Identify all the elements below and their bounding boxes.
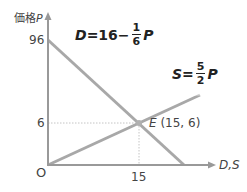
origin-label: O — [36, 166, 46, 179]
supply-eq-var: P — [207, 66, 217, 82]
demand-frac-den: 6 — [133, 35, 141, 47]
x-axis-arrow-icon — [208, 162, 216, 169]
demand-equation: D =16− 1 6 P — [75, 22, 154, 47]
y-axis-label-text: 価格 — [14, 12, 36, 25]
supply-equation: S = 5 2 P — [172, 61, 218, 86]
supply-frac-num: 5 — [196, 61, 206, 74]
supply-curve — [48, 95, 200, 165]
supply-eq-fraction: 5 2 — [196, 61, 206, 86]
y-axis-label-var: P — [36, 12, 43, 25]
equilibrium-point — [136, 120, 142, 126]
equilibrium-letter: E — [149, 116, 157, 130]
demand-eq-fraction: 1 6 — [132, 22, 142, 47]
supply-eq-sign: = — [182, 66, 194, 82]
y-tick-96: 96 — [29, 34, 44, 46]
demand-frac-num: 1 — [132, 22, 142, 35]
y-axis-arrow-icon — [45, 12, 52, 20]
y-tick-6: 6 — [37, 117, 45, 129]
y-axis-label: 価格P — [14, 13, 43, 24]
supply-frac-den: 2 — [197, 74, 205, 86]
equilibrium-label: E (15, 6) — [149, 117, 200, 129]
supply-eq-lhs: S — [172, 66, 182, 82]
equilibrium-coords: (15, 6) — [160, 116, 200, 130]
demand-eq-constant: =16− — [87, 27, 130, 43]
x-tick-15: 15 — [131, 171, 146, 183]
demand-eq-var: P — [143, 27, 153, 43]
demand-eq-lhs: D — [75, 27, 87, 43]
x-axis-label: D,S — [219, 159, 240, 171]
demand-curve — [48, 40, 184, 165]
